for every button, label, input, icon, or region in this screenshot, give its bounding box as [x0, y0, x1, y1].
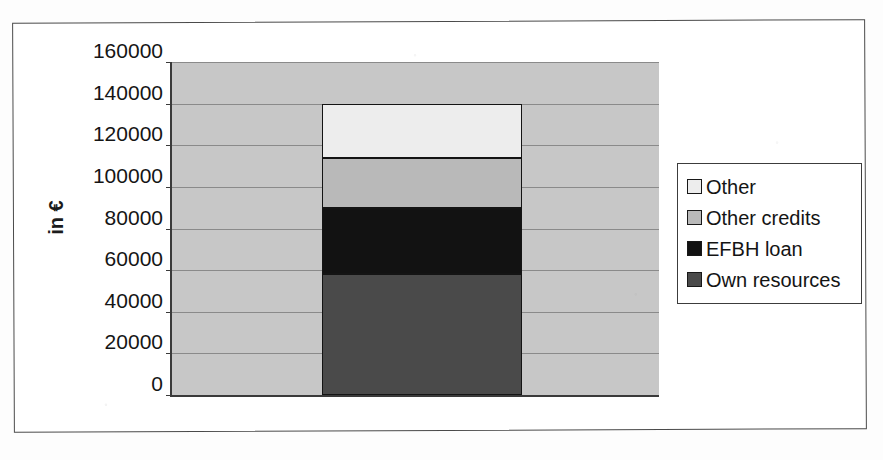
legend-item[interactable]: EFBH loan [687, 233, 852, 264]
y-tick-label: 20000 [105, 331, 163, 352]
legend-label: Other credits [706, 208, 820, 228]
legend-item[interactable]: Other credits [687, 202, 852, 233]
y-axis-tick [166, 270, 172, 271]
legend-swatch-icon [687, 210, 702, 225]
y-tick-label: 120000 [93, 123, 163, 144]
gridline [172, 62, 659, 63]
y-axis-tick [166, 229, 172, 230]
y-axis-tick [166, 104, 172, 105]
y-axis-tick [166, 353, 172, 354]
legend-item[interactable]: Other [687, 171, 852, 202]
y-tick-label: 60000 [105, 248, 163, 269]
gridline [172, 395, 659, 396]
y-tick-label: 100000 [93, 164, 163, 185]
legend-label: Other [706, 177, 756, 197]
y-tick-label: 160000 [93, 40, 163, 61]
bar-segment-efbh-loan[interactable] [322, 208, 522, 275]
scanned-page: in € 02000040000600008000010000012000014… [0, 0, 883, 460]
y-axis-tick [166, 62, 172, 63]
y-tick-label: 40000 [105, 289, 163, 310]
y-axis-tick-labels: 0200004000060000800001000001200001400001… [60, 50, 163, 383]
bar-segment-other[interactable] [322, 104, 522, 158]
legend-swatch-icon [687, 179, 702, 194]
stacked-bar-chart: in € 02000040000600008000010000012000014… [13, 21, 866, 431]
legend-item[interactable]: Own resources [687, 264, 852, 295]
y-tick-label: 140000 [93, 81, 163, 102]
plot-area [170, 62, 659, 397]
y-tick-label: 0 [151, 373, 163, 394]
y-axis-tick [166, 187, 172, 188]
bar-segment-other-credits[interactable] [322, 158, 522, 208]
legend-swatch-icon [687, 272, 702, 287]
bar-segment-own-resources[interactable] [322, 274, 522, 395]
legend-swatch-icon [687, 241, 702, 256]
legend-label: EFBH loan [706, 239, 803, 259]
y-tick-label: 80000 [105, 206, 163, 227]
legend-label: Own resources [706, 270, 841, 290]
chart-legend: OtherOther creditsEFBH loanOwn resources [677, 163, 862, 304]
stacked-bar[interactable] [322, 104, 522, 395]
y-axis-tick [166, 312, 172, 313]
y-axis-tick [166, 145, 172, 146]
y-axis-tick [166, 395, 172, 396]
